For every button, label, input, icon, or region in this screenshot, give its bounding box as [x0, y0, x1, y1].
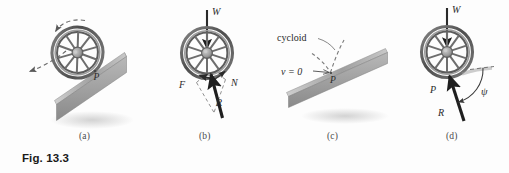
panel-label-d: (d) [446, 131, 458, 141]
panel-c-label-P: P [329, 75, 336, 85]
panel-d: W P R ψ [422, 4, 495, 121]
figure-illustration: P W F [0, 0, 509, 173]
panel-c-cycloid-left [312, 54, 331, 73]
panel-d-wheel [422, 27, 473, 78]
panel-b-label-F: F [178, 79, 186, 90]
panel-d-resultant-arrow [450, 76, 465, 121]
panel-c-velocity-leader [313, 71, 329, 73]
panel-d-label-P: P [429, 84, 436, 95]
panel-label-c: (c) [327, 131, 338, 141]
panel-c-cycloid-leader [318, 39, 335, 51]
panel-c-label-v: v = 0 [281, 66, 302, 77]
panel-c: cycloid v = 0 P [277, 32, 389, 124]
panel-label-a: (a) [79, 131, 90, 141]
panel-c-contact-dot [330, 72, 332, 74]
figure-13-3: P W F [0, 0, 509, 173]
panel-c-shadow [301, 108, 389, 124]
panel-a: P [30, 17, 135, 129]
panel-d-label-W: W [452, 4, 462, 15]
panel-b-label-R: R [215, 97, 222, 108]
panel-a-path-arc [30, 51, 67, 72]
panel-b: W F N R [178, 6, 239, 119]
panel-a-label-P: P [93, 72, 100, 82]
panel-d-label-psi: ψ [481, 86, 488, 97]
panel-a-incline [55, 53, 127, 121]
panel-c-label-cycloid: cycloid [277, 32, 306, 43]
panel-label-b: (b) [199, 131, 211, 141]
panel-b-wheel [182, 28, 233, 79]
figure-caption: Fig. 13.3 [22, 152, 69, 164]
panel-d-label-R: R [437, 107, 444, 118]
panel-b-label-W: W [212, 6, 222, 17]
panel-b-label-N: N [230, 77, 239, 88]
panel-c-incline [287, 49, 388, 108]
